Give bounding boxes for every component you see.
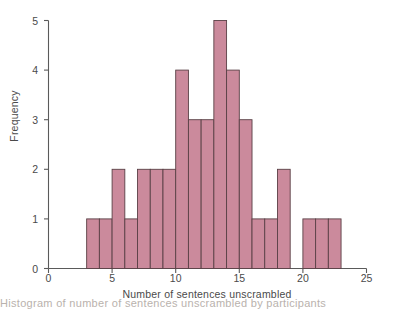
histogram-bar	[188, 120, 201, 269]
histogram-bar	[99, 219, 112, 269]
histogram-bar	[277, 169, 290, 268]
histogram-bar	[163, 169, 176, 268]
histogram-bar	[214, 21, 227, 269]
y-tick-label: 5	[26, 15, 38, 27]
x-tick-label: 0	[46, 272, 52, 284]
y-tick-label: 1	[26, 213, 38, 225]
histogram-bar	[252, 219, 265, 269]
histogram-bar	[328, 219, 341, 269]
histogram-bar	[87, 219, 100, 269]
x-tick-label: 10	[170, 272, 182, 284]
histogram-bar	[303, 219, 316, 269]
x-tick-label: 20	[297, 272, 309, 284]
histogram-bar	[227, 70, 240, 268]
x-tick-label: 15	[233, 272, 245, 284]
x-tick-label: 5	[109, 272, 115, 284]
y-tick-label: 3	[26, 114, 38, 126]
histogram-bar	[125, 219, 138, 269]
histogram-bar	[239, 120, 252, 269]
histogram-bar	[112, 169, 125, 268]
histogram-bar	[176, 70, 189, 268]
bar-group	[87, 21, 341, 269]
histogram-bar	[265, 219, 278, 269]
figure-caption: Histogram of number of sentences unscram…	[0, 297, 395, 309]
histogram-bar	[316, 219, 329, 269]
y-tick-label: 4	[26, 64, 38, 76]
y-tick-label: 2	[26, 163, 38, 175]
histogram-figure: Frequency Number of sentences unscramble…	[0, 0, 395, 313]
plot-area	[0, 0, 395, 313]
y-tick-label: 0	[26, 263, 38, 275]
histogram-bar	[201, 120, 214, 269]
histogram-bar	[138, 169, 151, 268]
histogram-bar	[150, 169, 163, 268]
x-tick-label: 25	[361, 272, 373, 284]
